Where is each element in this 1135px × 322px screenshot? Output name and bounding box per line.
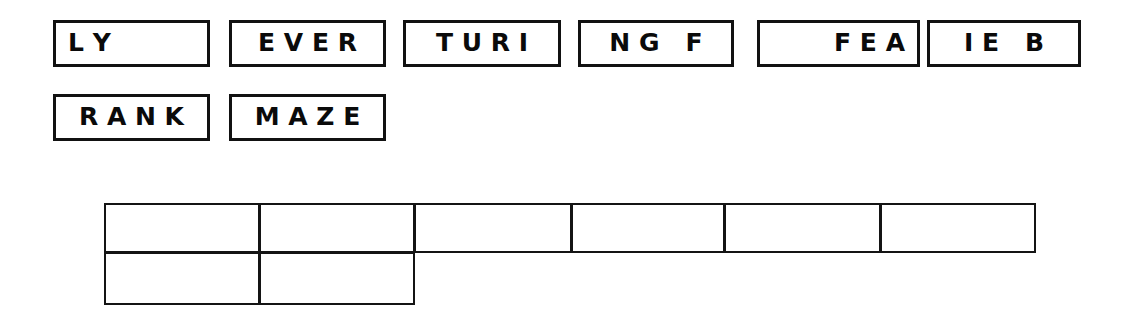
box-ly[interactable]: L Y <box>53 20 210 67</box>
grid-cell-r1c5[interactable] <box>724 203 881 253</box>
grid-cell-r1c3[interactable] <box>414 203 572 253</box>
grid-cell-r2c2[interactable] <box>259 252 415 305</box>
page-canvas: L YE V E RT U R IN G FF E AI E BR A N KM… <box>0 0 1135 322</box>
box-fea[interactable]: F E A <box>757 20 920 67</box>
word-box-letters: E V E R <box>258 30 357 55</box>
box-ieb[interactable]: I E B <box>927 20 1081 67</box>
grid-cell-r1c2[interactable] <box>259 203 415 253</box>
box-ever[interactable]: E V E R <box>229 20 386 67</box>
word-box-letters: N G F <box>609 30 702 55</box>
word-box-letters: M A Z E <box>255 104 361 129</box>
box-ngf[interactable]: N G F <box>578 20 734 67</box>
grid-cell-r1c6[interactable] <box>880 203 1036 253</box>
word-box-letters: F E A <box>834 30 905 55</box>
grid-cell-r1c4[interactable] <box>571 203 725 253</box>
grid-cell-r1c1[interactable] <box>104 203 260 253</box>
word-box-letters: I E B <box>964 30 1044 55</box>
box-turing[interactable]: T U R I <box>403 20 561 67</box>
grid-cell-r2c1[interactable] <box>104 252 260 305</box>
box-maze[interactable]: M A Z E <box>229 94 386 141</box>
word-box-letters: R A N K <box>79 104 184 129</box>
word-box-letters: T U R I <box>436 30 528 55</box>
word-box-letters: L Y <box>68 30 111 55</box>
box-rank[interactable]: R A N K <box>53 94 210 141</box>
